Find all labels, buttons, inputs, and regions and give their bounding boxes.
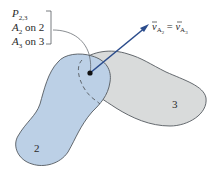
point-p23 <box>87 70 92 75</box>
coincident-point-a2: A2 on 2 <box>11 21 44 36</box>
point-label: P2,3 <box>11 7 28 22</box>
body-2-shape <box>16 54 111 166</box>
svg-text:vA2 = vA3: vA2 = vA3 <box>152 21 188 35</box>
coincident-point-a3: A3 on 3 <box>11 35 45 50</box>
body-2-label: 2 <box>34 142 40 154</box>
body-3-label: 3 <box>172 98 178 110</box>
velocity-label: vA2 = vA3 <box>152 21 188 35</box>
diagram-canvas: P2,3 A2 on 2 A3 on 3 vA2 = vA3 2 3 <box>0 0 212 175</box>
label-bracket <box>46 11 51 44</box>
